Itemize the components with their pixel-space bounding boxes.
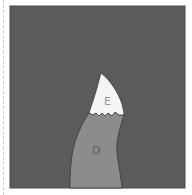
region-d-label: D [92,144,100,157]
diagram-canvas: E D [0,0,192,195]
region-e-label: E [104,95,111,108]
tooth-diagram: E D [0,0,192,195]
